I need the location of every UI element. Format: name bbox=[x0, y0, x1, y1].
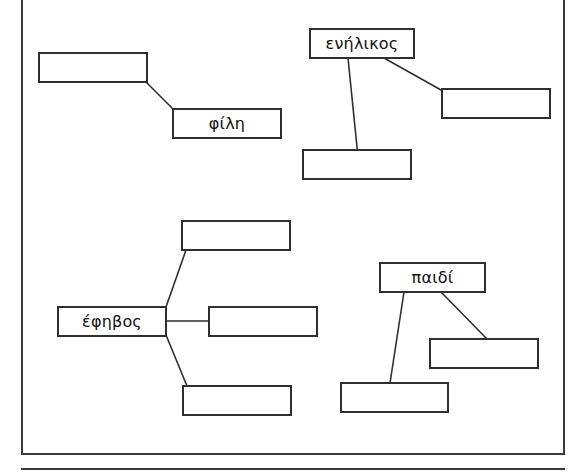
node-box-paidi-word[interactable]: παιδί bbox=[379, 262, 486, 293]
node-box-efivos-word[interactable]: έφηβος bbox=[57, 306, 167, 337]
node-box-paidi-blank-right[interactable] bbox=[429, 338, 539, 369]
node-box-paidi-blank-left[interactable] bbox=[340, 382, 449, 413]
node-box-fili-word[interactable]: φίλη bbox=[172, 108, 282, 139]
node-box-efivos-blank-bottom[interactable] bbox=[182, 385, 292, 416]
worksheet-footer-divider bbox=[21, 468, 565, 470]
node-box-fili-blank-top[interactable] bbox=[38, 52, 148, 83]
node-box-efivos-blank-middle[interactable] bbox=[208, 306, 318, 337]
node-box-efivos-blank-top[interactable] bbox=[181, 220, 291, 251]
node-box-enilikos-blank-right[interactable] bbox=[441, 88, 551, 119]
node-box-enilikos-blank-bottom[interactable] bbox=[302, 149, 412, 180]
worksheet-canvas: φίλη ενήλικος έφηβος παιδί bbox=[0, 0, 586, 472]
node-box-enilikos-word[interactable]: ενήλικος bbox=[309, 28, 415, 59]
